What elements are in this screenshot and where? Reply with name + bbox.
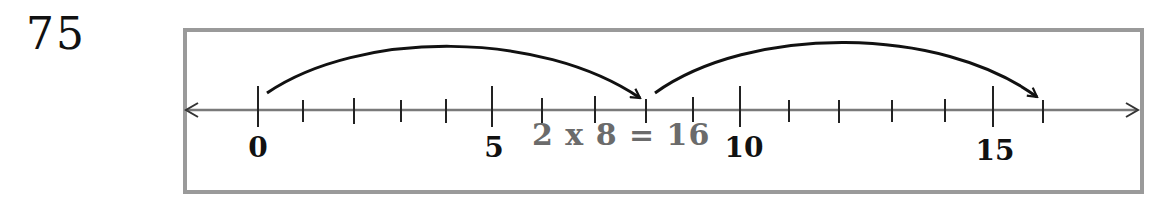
equation-text: 2 x 8 = 16 bbox=[532, 120, 710, 150]
number-line-axis bbox=[186, 103, 1138, 117]
jump-arc-8-to-16 bbox=[655, 42, 1037, 97]
jump-arc-0-to-8 bbox=[267, 46, 640, 98]
number-line-diagram bbox=[0, 0, 1170, 203]
label-10: 10 bbox=[725, 134, 764, 162]
label-5: 5 bbox=[484, 134, 503, 162]
label-0: 0 bbox=[248, 134, 267, 162]
label-15: 15 bbox=[976, 137, 1015, 165]
